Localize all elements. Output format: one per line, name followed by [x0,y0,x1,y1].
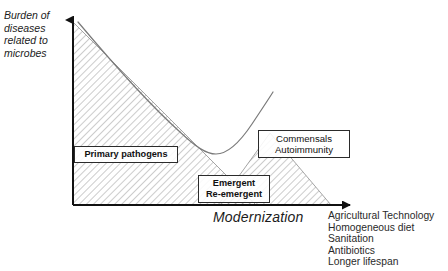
annotation-emergent-label-line-2: Re-emergent [206,189,262,200]
annotation-commensals: Commensals Autoimmunity [258,130,350,158]
y-axis-label-text-3: related to [4,34,66,47]
annotation-emergent: Emergent Re-emergent [198,175,270,203]
x-axis-label: Modernization [213,209,304,225]
chart-figure: Total burden of microbe-related disease … [0,0,448,271]
driver-item-1: Agricultural Technology [328,210,434,222]
driver-item-4: Antibiotics [328,245,434,257]
y-axis-label-text-1: Burden of [4,9,66,22]
modernization-drivers-list: Agricultural Technology Homogeneous diet… [328,210,434,268]
driver-item-5: Longer lifespan [328,256,434,268]
driver-item-2: Homogeneous diet [328,222,434,234]
annotation-commensals-label-line-2: Autoimmunity [275,144,333,155]
y-axis-label-text-4: microbes [4,47,66,60]
annotation-emergent-label-line-1: Emergent [213,178,255,189]
y-axis-label-text-2: diseases [4,22,66,35]
driver-item-3: Sanitation [328,233,434,245]
annotation-commensals-label-line-1: Commensals [276,133,332,144]
annotation-primary-pathogens-label: Primary pathogens [84,149,167,160]
annotation-primary-pathogens: Primary pathogens [74,146,178,163]
y-axis-label: Total burden of microbe-related disease … [4,9,66,59]
